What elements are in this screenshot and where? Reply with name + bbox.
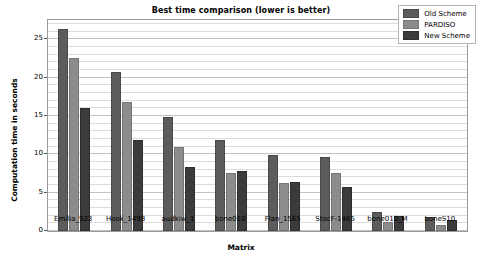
y-tick-mark — [44, 230, 47, 231]
x-axis-label: Matrix — [0, 243, 482, 252]
x-tick-label: Emilia_923 — [54, 215, 92, 223]
x-tick-label: StocF-1465 — [315, 215, 355, 223]
bar-group — [362, 20, 414, 231]
legend-swatch-icon — [403, 31, 419, 40]
x-tick-label: bone010 — [215, 215, 246, 223]
bar-Flan_1565-pardiso — [279, 183, 289, 231]
bar-chart-figure: Best time comparison (lower is better) 0… — [0, 0, 482, 280]
bar-Emilia_923-old-scheme — [58, 29, 68, 231]
y-axis-label: Computation time in seconds — [10, 40, 19, 240]
bar-Emilia_923-pardiso — [69, 58, 79, 231]
bar-Hook_1498-old-scheme — [111, 72, 121, 231]
plot-area — [47, 19, 468, 232]
chart-legend: Old SchemePARDISONew Scheme — [398, 5, 476, 44]
bar-group — [48, 20, 100, 231]
bar-group — [205, 20, 257, 231]
bar-Emilia_923-new-scheme — [80, 108, 90, 231]
x-tick-label: bone010_M — [367, 215, 407, 223]
legend-swatch-icon — [403, 9, 419, 18]
legend-item: Old Scheme — [403, 9, 470, 18]
legend-label: PARDISO — [424, 21, 455, 29]
bar-audkiw_1-old-scheme — [163, 117, 173, 231]
legend-label: New Scheme — [424, 32, 470, 40]
legend-item: PARDISO — [403, 20, 470, 29]
y-tick-mark — [44, 77, 47, 78]
bar-group — [415, 20, 467, 231]
bar-group — [153, 20, 205, 231]
bar-StocF-1465-new-scheme — [342, 187, 352, 232]
bar-Hook_1498-pardiso — [122, 102, 132, 231]
legend-swatch-icon — [403, 20, 419, 29]
x-tick-label: Hook_1498 — [106, 215, 145, 223]
bar-group — [310, 20, 362, 231]
bar-bone010_M-pardiso — [383, 222, 393, 231]
y-tick-mark — [44, 38, 47, 39]
y-tick-mark — [44, 153, 47, 154]
legend-label: Old Scheme — [424, 10, 466, 18]
bar-group — [258, 20, 310, 231]
x-tick-label: Flan_1565 — [265, 215, 301, 223]
legend-item: New Scheme — [403, 31, 470, 40]
y-tick-mark — [44, 192, 47, 193]
x-tick-label: boneS10 — [424, 215, 455, 223]
y-tick-mark — [44, 115, 47, 116]
bar-Flan_1565-new-scheme — [290, 182, 300, 231]
bar-group — [100, 20, 152, 231]
bars-layer — [48, 20, 467, 231]
bar-boneS10-pardiso — [436, 225, 446, 231]
x-tick-label: audkiw_1 — [162, 215, 195, 223]
